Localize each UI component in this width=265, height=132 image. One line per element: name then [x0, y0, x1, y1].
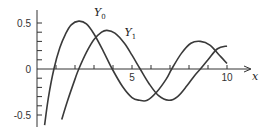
- y-tick-label: 0: [25, 64, 31, 75]
- x-axis-label: x: [252, 70, 259, 83]
- series-labels: Y0Y1: [94, 6, 136, 41]
- bessel-chart: 5100.50-0.5 Y0Y1 x: [0, 0, 265, 132]
- x-tick-label: 5: [129, 72, 135, 83]
- series-label-y1: Y1: [124, 26, 136, 41]
- x-tick-label: 10: [221, 72, 233, 83]
- series-line-y1: [62, 30, 227, 119]
- y-tick-label: 0.5: [17, 18, 31, 29]
- y-tick-label: -0.5: [14, 110, 32, 121]
- series-label-y0: Y0: [94, 6, 106, 21]
